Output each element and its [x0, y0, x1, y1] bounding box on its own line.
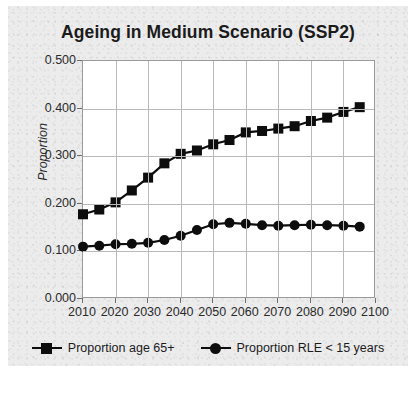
data-point-circle	[290, 220, 300, 230]
grid-line-vertical	[213, 61, 214, 297]
x-axis-tick	[277, 298, 278, 303]
x-axis-tick	[342, 298, 343, 303]
legend-entry-age65: Proportion age 65+	[32, 341, 175, 355]
y-axis-tick-label: 0.200	[30, 196, 76, 210]
grid-line-vertical	[343, 61, 344, 297]
legend-label: Proportion RLE < 15 years	[237, 341, 385, 355]
x-axis-tick	[82, 298, 83, 303]
x-axis-tick-marks	[82, 298, 375, 304]
data-point-circle	[94, 241, 104, 251]
data-point-circle	[159, 235, 169, 245]
data-point-square	[322, 113, 332, 123]
x-axis-tick-labels: 2010202020302040205020602070208020902100	[82, 305, 375, 321]
data-point-square	[78, 209, 88, 219]
data-point-circle	[192, 225, 202, 235]
data-point-circle	[257, 220, 267, 230]
data-point-square	[257, 126, 267, 136]
grid-line-vertical	[278, 61, 279, 297]
y-axis-tick-label: 0.300	[30, 148, 76, 162]
grid-line-horizontal	[83, 251, 374, 252]
data-point-square	[94, 205, 104, 215]
grid-line-horizontal	[83, 109, 374, 110]
grid-line-vertical	[181, 61, 182, 297]
plot-area	[82, 60, 375, 298]
legend-label: Proportion age 65+	[68, 341, 175, 355]
y-axis-tick-label: 0.500	[30, 53, 76, 67]
chart-figure: Ageing in Medium Scenario (SSP2) Proport…	[0, 0, 416, 396]
data-point-circle	[127, 239, 137, 249]
x-axis-tick	[115, 298, 116, 303]
data-point-circle	[322, 220, 332, 230]
x-axis-tick	[310, 298, 311, 303]
series-rle	[78, 218, 365, 252]
x-axis-tick-label: 2100	[355, 305, 395, 319]
series-line	[83, 223, 360, 247]
grid-line-vertical	[246, 61, 247, 297]
series-age65	[78, 102, 365, 219]
chart-title: Ageing in Medium Scenario (SSP2)	[8, 22, 408, 43]
data-point-circle	[355, 222, 365, 232]
x-axis-tick	[375, 298, 376, 303]
data-point-square	[290, 121, 300, 131]
series-line	[83, 107, 360, 214]
square-marker-icon	[32, 341, 62, 355]
x-axis-tick	[212, 298, 213, 303]
y-axis-tick-label: 0.400	[30, 101, 76, 115]
data-point-circle	[225, 218, 235, 228]
legend-entry-rle: Proportion RLE < 15 years	[201, 341, 385, 355]
series-layer	[83, 61, 376, 299]
data-point-square	[355, 102, 365, 112]
grid-line-vertical	[148, 61, 149, 297]
data-point-circle	[78, 242, 88, 252]
y-axis-tick-label: 0.100	[30, 243, 76, 257]
x-axis-tick	[180, 298, 181, 303]
circle-marker-icon	[201, 341, 231, 355]
data-point-square	[225, 135, 235, 145]
grid-line-vertical	[116, 61, 117, 297]
chart-legend: Proportion age 65+ Proportion RLE < 15 y…	[8, 336, 408, 360]
y-axis-tick-label: 0.000	[30, 291, 76, 305]
y-axis-tick-labels: 0.0000.1000.2000.3000.4000.500	[28, 60, 76, 298]
x-axis-tick	[147, 298, 148, 303]
grid-line-vertical	[311, 61, 312, 297]
x-axis-tick	[245, 298, 246, 303]
data-point-square	[192, 145, 202, 155]
data-point-square	[159, 158, 169, 168]
data-point-square	[127, 185, 137, 195]
grid-line-horizontal	[83, 204, 374, 205]
grid-line-horizontal	[83, 156, 374, 157]
